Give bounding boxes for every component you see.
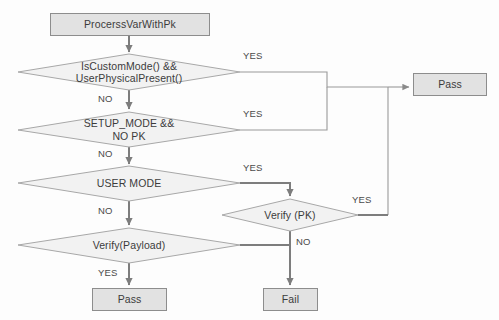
edge-setup-mode-yes: [240, 87, 327, 130]
terminator-pass-bottom-label: Pass: [118, 294, 142, 306]
edge-custom-mode-yes: [240, 72, 388, 87]
terminator-pass-right-label: Pass: [438, 79, 462, 91]
flowchart-canvas: IsCustomMode() && UserPhysicalPresent() …: [0, 0, 499, 320]
decision-user-mode-shape: [18, 166, 240, 201]
decision-verify-payload-shape: [18, 228, 240, 263]
terminator-pass-right: Pass: [413, 73, 487, 96]
process-start: ProcerssVarWithPk: [50, 13, 210, 36]
terminator-fail: Fail: [263, 288, 318, 311]
terminator-pass-bottom: Pass: [92, 288, 167, 311]
process-start-label: ProcerssVarWithPk: [84, 19, 176, 31]
terminator-fail-label: Fail: [282, 294, 299, 306]
decision-custom-mode-shape: [18, 54, 240, 90]
flowchart-connectors: [0, 0, 499, 320]
decision-setup-mode-shape: [18, 112, 240, 147]
decision-verify-pk-shape: [222, 199, 358, 231]
edge-user-mode-yes: [240, 183, 290, 196]
